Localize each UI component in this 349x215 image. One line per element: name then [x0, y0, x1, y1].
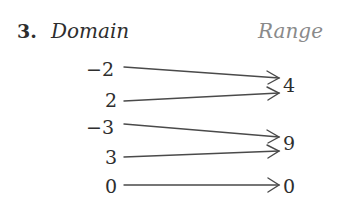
arrow-icon — [124, 87, 279, 101]
mapping-arrows — [0, 0, 349, 215]
arrow-icon — [124, 145, 279, 158]
arrow-icon — [124, 178, 279, 192]
arrow-icon — [124, 124, 279, 143]
arrow-icon — [124, 67, 279, 84]
